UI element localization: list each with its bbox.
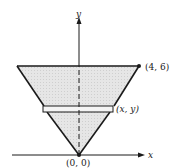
point-label-top-right: (4, 6) — [145, 62, 169, 72]
x-axis-arrow-icon — [138, 153, 145, 158]
x-axis-label: x — [148, 150, 153, 160]
point-label-strip: (x, y) — [116, 104, 139, 114]
point-top-right — [137, 64, 141, 68]
disk-strip — [43, 106, 113, 112]
point-origin — [77, 153, 81, 157]
cone-diagram: y x (4, 6) (x, y) (0, 0) — [0, 0, 178, 168]
upper-cone-region — [17, 66, 139, 106]
point-label-origin: (0, 0) — [66, 158, 90, 168]
y-axis-label: y — [75, 9, 82, 19]
